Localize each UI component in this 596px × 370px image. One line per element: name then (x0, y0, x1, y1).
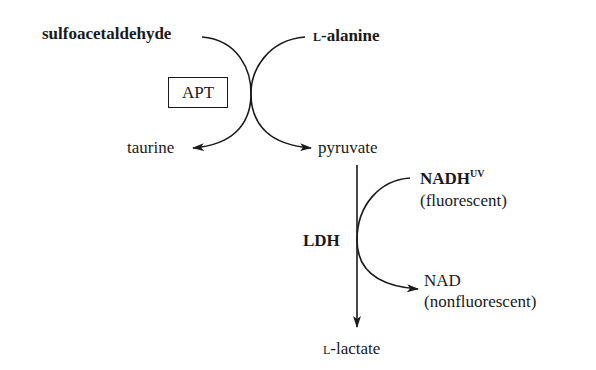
uv-superscript: UV (470, 168, 484, 179)
ldh-enzyme-label: LDH (303, 232, 340, 249)
apt-right-arc (251, 37, 311, 148)
l-prefix: L (313, 30, 321, 44)
apt-label: APT (182, 83, 214, 103)
sulfoacetaldehyde-label: sulfoacetaldehyde (42, 25, 171, 42)
apt-enzyme-box: APT (168, 77, 228, 108)
nonfluorescent-note: (nonfluorescent) (424, 293, 536, 310)
l-lactate-label: L-lactate (323, 340, 380, 357)
alanine-text: -alanine (321, 26, 380, 45)
taurine-label: taurine (127, 139, 174, 156)
nadh-label: NADHUV (420, 170, 485, 187)
nad-label: NAD (424, 272, 461, 289)
nadh-text: NADH (420, 169, 470, 188)
pyruvate-label: pyruvate (318, 139, 377, 156)
ldh-cofactor-arc (357, 178, 418, 289)
fluorescent-note: (fluorescent) (420, 192, 507, 209)
l-alanine-label: L-alanine (313, 27, 380, 44)
reaction-arrows (0, 0, 596, 370)
lactate-text: -lactate (330, 339, 380, 358)
